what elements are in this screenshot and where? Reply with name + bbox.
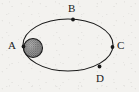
point-marker-c: [111, 45, 115, 49]
point-marker-b: [71, 18, 75, 22]
point-marker-a: [22, 45, 26, 49]
point-label-d: D: [96, 73, 104, 84]
orbit-diagram-figure: A B C D: [0, 0, 139, 92]
shaded-body-shading: [24, 39, 42, 57]
point-marker-d: [98, 65, 102, 69]
point-label-b: B: [68, 3, 75, 14]
point-label-c: C: [117, 40, 124, 51]
shaded-body: [24, 39, 43, 58]
point-label-a: A: [8, 40, 16, 51]
